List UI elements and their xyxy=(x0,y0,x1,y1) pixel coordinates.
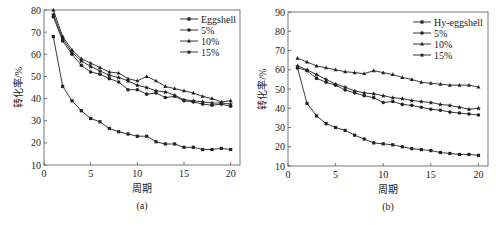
square-marker xyxy=(334,126,337,129)
square-marker xyxy=(80,109,83,112)
square-marker xyxy=(173,142,176,145)
y-tick-label: 90 xyxy=(275,7,285,18)
legend-label: Hy-eggshell xyxy=(434,17,483,28)
circle-marker xyxy=(108,77,112,81)
y-axis-label: 转化率/% xyxy=(12,67,24,108)
star-marker xyxy=(438,102,443,107)
circle-marker xyxy=(117,80,121,84)
x-tick-label: 20 xyxy=(473,169,483,180)
square-marker xyxy=(154,140,157,143)
star-marker xyxy=(116,75,121,80)
circle-marker xyxy=(126,88,130,92)
square-marker xyxy=(70,99,73,102)
y-tick-label: 70 xyxy=(31,27,41,38)
x-axis: 05101520 xyxy=(42,162,236,179)
legend-label: 10% xyxy=(434,39,452,50)
series-15 xyxy=(295,64,481,112)
legend-item: 15% xyxy=(180,47,219,58)
panel-label: (a) xyxy=(136,200,147,212)
square-marker xyxy=(210,148,213,151)
line-chart-b: 10203040506070809005101520周期转化率/%(b)Hy-e… xyxy=(248,0,496,225)
circle-marker xyxy=(187,28,191,32)
chart-panel-b: 10203040506070809005101520周期转化率/%(b)Hy-e… xyxy=(248,0,496,225)
star-marker xyxy=(420,53,425,58)
y-tick-label: 50 xyxy=(275,84,285,95)
square-marker xyxy=(220,147,223,150)
y-tick-label: 80 xyxy=(275,26,285,37)
legend-label: 5% xyxy=(434,28,447,39)
star-marker xyxy=(467,107,472,112)
series-line xyxy=(298,66,479,109)
legend: Hy-eggshell5%10%15% xyxy=(413,17,483,61)
x-tick-label: 5 xyxy=(88,168,93,179)
circle-marker xyxy=(429,107,433,111)
circle-marker xyxy=(448,110,452,114)
y-tick-label: 70 xyxy=(275,45,285,56)
x-tick-label: 10 xyxy=(132,168,142,179)
square-marker xyxy=(61,85,64,88)
star-marker xyxy=(163,90,168,95)
y-tick-label: 10 xyxy=(31,160,41,171)
square-marker xyxy=(439,151,442,154)
series-Hyeggshell xyxy=(296,66,480,157)
square-marker xyxy=(315,114,318,117)
square-marker xyxy=(391,143,394,146)
x-axis-label: 周期 xyxy=(378,184,398,195)
legend-item: 5% xyxy=(413,28,447,39)
square-marker xyxy=(353,134,356,137)
circle-marker xyxy=(315,77,319,81)
legend-item: Eggshell xyxy=(180,14,236,25)
square-marker xyxy=(420,20,423,23)
circle-marker xyxy=(80,64,84,68)
square-marker xyxy=(344,129,347,132)
x-tick-label: 20 xyxy=(226,168,236,179)
y-tick-label: 30 xyxy=(275,122,285,133)
line-chart-a: 102030405060708005101520周期转化率/%(a)Eggshe… xyxy=(0,0,248,225)
square-marker xyxy=(136,135,139,138)
y-axis: 102030405060708090 xyxy=(275,7,291,172)
x-tick-label: 0 xyxy=(286,169,291,180)
circle-marker xyxy=(145,92,149,96)
square-marker xyxy=(458,153,461,156)
circle-marker xyxy=(391,100,395,104)
square-marker xyxy=(187,17,190,20)
y-tick-label: 50 xyxy=(31,71,41,82)
y-tick-label: 30 xyxy=(31,115,41,126)
star-marker xyxy=(371,92,376,97)
circle-marker xyxy=(410,104,414,108)
circle-marker xyxy=(89,70,93,74)
square-marker xyxy=(429,149,432,152)
star-marker xyxy=(381,93,386,98)
square-marker xyxy=(201,148,204,151)
square-marker xyxy=(192,146,195,149)
square-marker xyxy=(229,148,232,151)
y-tick-label: 40 xyxy=(275,103,285,114)
star-marker xyxy=(187,50,192,55)
legend-label: 15% xyxy=(201,47,219,58)
x-tick-label: 5 xyxy=(333,169,338,180)
series-10 xyxy=(296,56,481,89)
x-tick-label: 15 xyxy=(179,168,189,179)
star-marker xyxy=(135,83,140,88)
y-tick-label: 80 xyxy=(31,5,41,16)
y-tick-label: 20 xyxy=(31,137,41,148)
square-marker xyxy=(401,145,404,148)
y-tick-label: 20 xyxy=(275,141,285,152)
square-marker xyxy=(324,122,327,125)
x-axis: 05101520 xyxy=(286,163,484,180)
panel-label: (b) xyxy=(382,201,394,213)
square-marker xyxy=(182,146,185,149)
star-marker xyxy=(448,103,453,108)
square-marker xyxy=(477,154,480,157)
y-axis: 1020304050607080 xyxy=(31,5,47,171)
square-marker xyxy=(52,35,55,38)
legend-item: 5% xyxy=(180,25,214,36)
triangle-marker xyxy=(145,74,149,78)
triangle-marker xyxy=(296,56,300,60)
legend-item: 15% xyxy=(413,50,452,61)
legend-label: 5% xyxy=(201,25,214,36)
star-marker xyxy=(429,100,434,105)
square-marker xyxy=(467,153,470,156)
square-marker xyxy=(126,132,129,135)
x-axis-label: 周期 xyxy=(132,183,152,194)
